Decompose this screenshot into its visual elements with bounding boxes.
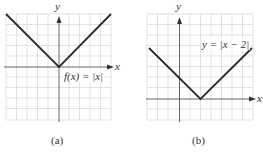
x-axis-arrow-b	[249, 97, 256, 102]
x-axis-label-a: x	[115, 60, 120, 72]
x-axis-arrow-a	[107, 65, 114, 70]
y-axis-label-a: y	[55, 0, 60, 12]
grid-b	[147, 14, 253, 120]
caption-a: (a)	[51, 134, 63, 146]
function-label-a: f(x) = |x|	[63, 70, 104, 82]
graph-a	[4, 14, 114, 122]
y-axis-label-b: y	[176, 0, 181, 12]
graph-b	[146, 14, 256, 122]
y-axis-arrow-b	[177, 17, 182, 24]
y-axis-arrow-a	[57, 16, 62, 23]
x-axis-label-b: x	[257, 92, 262, 104]
figure-canvas	[0, 0, 263, 155]
caption-b: (b)	[192, 134, 205, 146]
function-label-b: y = |x − 2|	[201, 38, 250, 50]
